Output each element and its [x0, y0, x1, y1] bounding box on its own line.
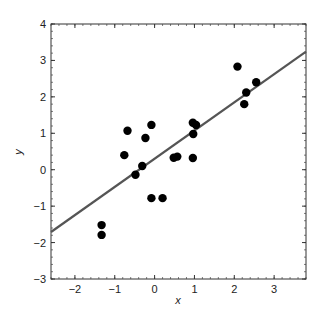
y-tick-label: 1: [40, 127, 46, 139]
y-tick-label: 3: [40, 54, 46, 66]
data-point: [141, 134, 149, 142]
data-point: [97, 221, 105, 229]
y-axis-label: y: [12, 148, 24, 156]
data-point: [138, 162, 146, 170]
data-point: [147, 194, 155, 202]
y-tick-label: 0: [40, 164, 46, 176]
data-point: [123, 127, 131, 135]
plot-frame: [51, 24, 306, 279]
regression-line: [51, 52, 306, 232]
x-tick-label: 2: [231, 283, 237, 295]
minor-ticks: [51, 24, 306, 279]
data-point: [158, 194, 166, 202]
data-points: [97, 62, 260, 239]
x-axis-label: x: [174, 294, 181, 306]
major-ticks: [51, 24, 306, 279]
y-tick-labels: −3−2−101234: [33, 18, 46, 285]
data-point: [189, 154, 197, 162]
plot-border: [51, 24, 306, 279]
x-tick-label: −1: [108, 283, 121, 295]
y-tick-label: −3: [33, 273, 46, 285]
y-tick-label: 4: [40, 18, 46, 30]
fit-line: [51, 52, 306, 232]
data-point: [192, 121, 200, 129]
data-point: [252, 78, 260, 86]
data-point: [97, 231, 105, 239]
x-tick-label: 0: [152, 283, 158, 295]
y-tick-label: −1: [33, 200, 46, 212]
data-point: [173, 152, 181, 160]
data-point: [131, 171, 139, 179]
data-point: [233, 62, 241, 70]
data-point: [147, 121, 155, 129]
data-point: [242, 88, 250, 96]
scatter-plot: −2−10123 −3−2−101234 x y: [0, 0, 321, 322]
x-tick-label: 3: [271, 283, 277, 295]
y-tick-label: 2: [40, 91, 46, 103]
x-tick-labels: −2−10123: [69, 283, 278, 295]
data-point: [240, 100, 248, 108]
x-tick-label: 1: [191, 283, 197, 295]
x-tick-label: −2: [69, 283, 82, 295]
data-point: [120, 151, 128, 159]
data-point: [189, 130, 197, 138]
y-tick-label: −2: [33, 237, 46, 249]
